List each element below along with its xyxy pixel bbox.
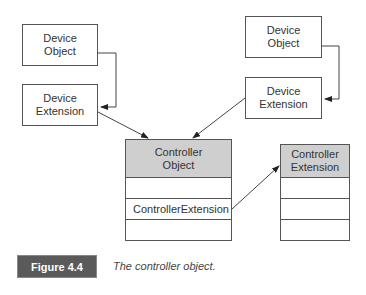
controller-extension-header-line1: Controller xyxy=(291,148,339,161)
controller-extension-row xyxy=(281,178,349,199)
controller-extension-header-line2: Extension xyxy=(291,161,339,174)
right-device-extension-line2: Extension xyxy=(259,98,307,111)
right-device-extension-line1: Device xyxy=(267,85,301,98)
controller-object-row xyxy=(126,178,231,199)
left-device-object-line2: Object xyxy=(44,45,76,58)
figure-label: Figure 4.4 xyxy=(17,255,97,278)
left-device-extension-box: Device Extension xyxy=(22,84,98,126)
controller-extension-header: Controller Extension xyxy=(281,145,349,178)
controller-extension-table: Controller Extension xyxy=(280,144,350,241)
controller-extension-row xyxy=(281,199,349,220)
left-device-extension-line2: Extension xyxy=(36,105,84,118)
left-device-object-line1: Device xyxy=(43,32,77,45)
right-device-object-line1: Device xyxy=(267,24,301,37)
controller-object-row xyxy=(126,220,231,240)
right-device-object-line2: Object xyxy=(268,37,300,50)
left-device-object-box: Device Object xyxy=(22,24,98,66)
controller-extension-field-row: ControllerExtension xyxy=(126,199,231,220)
figure-caption: The controller object. xyxy=(113,260,216,272)
controller-object-header: Controller Object xyxy=(126,140,231,178)
controller-object-header-line1: Controller xyxy=(155,146,203,159)
controller-extension-row xyxy=(281,220,349,240)
controller-object-header-line2: Object xyxy=(163,159,195,172)
right-device-object-box: Device Object xyxy=(245,16,322,58)
left-device-extension-line1: Device xyxy=(43,92,77,105)
right-device-extension-box: Device Extension xyxy=(245,77,322,119)
controller-object-table: Controller Object ControllerExtension xyxy=(125,139,232,241)
